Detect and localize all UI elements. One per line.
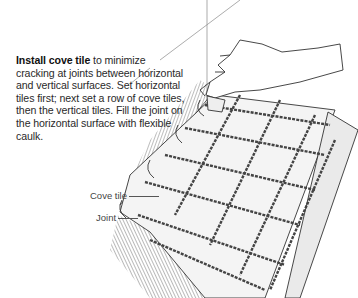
callout-joint: Joint [96, 212, 138, 223]
tile-installation-illustration [0, 0, 358, 298]
caption-body: to minimize cracking at joints between h… [16, 54, 184, 142]
hand-illustration [200, 40, 343, 112]
caption-lead: Install cove tile [16, 54, 90, 66]
joint-leader-line [118, 218, 138, 219]
instruction-caption: Install cove tile to minimize cracking a… [16, 54, 186, 142]
cove-tile-leader-line [129, 196, 159, 197]
callout-cove-tile: Cove tile [90, 190, 159, 201]
joint-label: Joint [96, 212, 116, 223]
cove-tile-label: Cove tile [90, 190, 127, 201]
